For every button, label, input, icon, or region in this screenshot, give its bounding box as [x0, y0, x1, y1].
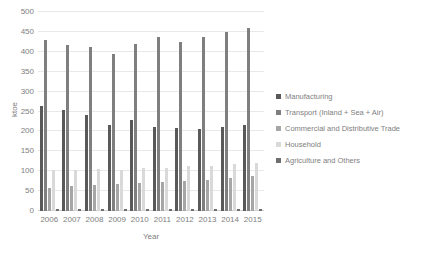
x-axis-title: Year [38, 232, 264, 241]
bar [130, 120, 133, 211]
bar [112, 54, 115, 211]
bar-group [128, 12, 151, 211]
bar [157, 37, 160, 211]
chart-legend: ManufacturingTransport (Inland + Sea + A… [276, 92, 422, 172]
bar [56, 209, 59, 211]
legend-swatch-icon [276, 126, 281, 131]
bar [134, 44, 137, 211]
bar-group [196, 12, 219, 211]
bar-group [38, 12, 61, 211]
x-axis-tick-label: 2015 [244, 215, 262, 224]
legend-label: Manufacturing [285, 92, 333, 101]
x-axis-tick-label: 2006 [40, 215, 58, 224]
bar [89, 47, 92, 211]
bar-group [151, 12, 174, 211]
bar [78, 209, 81, 211]
bar-group [219, 12, 242, 211]
bar-group [106, 12, 129, 211]
bar [146, 209, 149, 211]
bar [237, 209, 240, 211]
bar [40, 106, 43, 211]
bar [198, 129, 201, 211]
bar [165, 168, 168, 211]
bar [229, 178, 232, 211]
y-axis-tick-label: 150 [21, 146, 34, 155]
bar [225, 32, 228, 211]
bar [142, 168, 145, 211]
bar [206, 180, 209, 211]
bar-group [61, 12, 84, 211]
bar [221, 127, 224, 211]
y-axis-tick-label: 300 [21, 86, 34, 95]
bar [48, 188, 51, 211]
x-axis-tick-label: 2010 [131, 215, 149, 224]
y-axis-tick-label: 50 [25, 186, 34, 195]
legend-label: Transport (Inland + Sea + Air) [285, 108, 384, 117]
legend-swatch-icon [276, 94, 281, 99]
bar [259, 209, 262, 211]
bar [233, 164, 236, 211]
bar [251, 176, 254, 211]
x-axis-tick-label: 2012 [176, 215, 194, 224]
bar [153, 127, 156, 211]
bar [74, 170, 77, 211]
bar [97, 169, 100, 211]
legend-item[interactable]: Transport (Inland + Sea + Air) [276, 108, 422, 117]
bar [183, 181, 186, 211]
bar [85, 115, 88, 211]
bar-chart: ktoe 05010015020025030035040045050020062… [0, 0, 422, 254]
bar [116, 184, 119, 211]
y-axis-title: ktoe [10, 90, 19, 130]
legend-label: Commercial and Distributive Trade [285, 124, 400, 133]
bar [214, 209, 217, 211]
bar-group [241, 12, 264, 211]
legend-item[interactable]: Commercial and Distributive Trade [276, 124, 422, 133]
bar [191, 209, 194, 211]
plot-area: 0501001502002503003504004505002006200720… [38, 12, 264, 211]
y-axis-tick-label: 200 [21, 126, 34, 135]
x-axis-tick-label: 2013 [199, 215, 217, 224]
bar [70, 186, 73, 211]
bar [52, 170, 55, 211]
bar [66, 45, 69, 211]
bar [169, 209, 172, 211]
legend-item[interactable]: Household [276, 140, 422, 149]
x-axis-tick-label: 2014 [221, 215, 239, 224]
legend-label: Agriculture and Others [285, 156, 360, 165]
bar [62, 110, 65, 211]
bar [247, 28, 250, 211]
bar [202, 37, 205, 211]
bar-group [174, 12, 197, 211]
bar [187, 166, 190, 211]
x-axis-tick-label: 2009 [108, 215, 126, 224]
y-axis-tick-label: 450 [21, 26, 34, 35]
bar [120, 170, 123, 211]
bar [179, 42, 182, 211]
y-axis-tick-label: 500 [21, 7, 34, 16]
bar [138, 183, 141, 211]
x-axis-tick-label: 2008 [86, 215, 104, 224]
y-axis-tick-label: 250 [21, 106, 34, 115]
x-axis-tick-label: 2007 [63, 215, 81, 224]
y-axis-tick-label: 100 [21, 166, 34, 175]
bar [101, 209, 104, 211]
legend-label: Household [285, 140, 321, 149]
bar-group [83, 12, 106, 211]
bar [243, 125, 246, 211]
y-axis-tick-label: 0 [30, 206, 34, 215]
legend-item[interactable]: Agriculture and Others [276, 156, 422, 165]
bar [161, 182, 164, 211]
legend-swatch-icon [276, 158, 281, 163]
bar [108, 125, 111, 211]
legend-swatch-icon [276, 142, 281, 147]
bar [124, 209, 127, 211]
bar [175, 128, 178, 211]
y-axis-tick-label: 400 [21, 46, 34, 55]
bar [255, 163, 258, 211]
bar [93, 185, 96, 211]
legend-item[interactable]: Manufacturing [276, 92, 422, 101]
legend-swatch-icon [276, 110, 281, 115]
y-axis-tick-label: 350 [21, 66, 34, 75]
x-axis-tick-label: 2011 [154, 215, 171, 224]
bar [44, 40, 47, 211]
